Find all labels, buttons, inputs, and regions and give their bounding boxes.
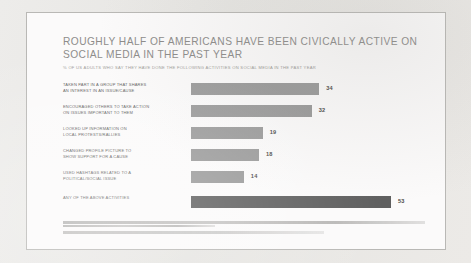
page-background: ROUGHLY HALF OF AMERICANS HAVE BEEN CIVI…	[0, 0, 471, 263]
bar	[191, 105, 312, 117]
bar-category-label: USED HASHTAGS RELATED TO APOLITICAL/SOCI…	[63, 170, 185, 181]
bar-track: 18	[191, 147, 425, 169]
bar-category-label: LOOKED UP INFORMATION ONLOCAL PROTESTS/R…	[63, 126, 185, 137]
bar-category-label: ENCOURAGED OTHERS TO TAKE ACTIONON ISSUE…	[63, 104, 185, 115]
bar-category-line-2: LOCAL PROTESTS/RALLIES	[63, 132, 185, 138]
bar-category-label: CHANGED PROFILE PICTURE TOSHOW SUPPORT F…	[63, 148, 185, 159]
bar-category-line-2: POLITICAL/SOCIAL ISSUE	[63, 176, 185, 182]
bar-value-label: 53	[398, 198, 405, 204]
bar-track: 32	[191, 103, 425, 125]
bar-value-label: 19	[270, 129, 277, 135]
bar-row: CHANGED PROFILE PICTURE TOSHOW SUPPORT F…	[63, 147, 425, 169]
bar-category-line-2: AN INTEREST IN AN ISSUE/CAUSE	[63, 88, 185, 94]
footnote-line	[63, 225, 215, 227]
footnote-line	[63, 221, 425, 223]
bar-track: 34	[191, 81, 425, 103]
bar-track: 14	[191, 169, 425, 191]
bar	[191, 83, 319, 95]
bar-track: 53	[191, 194, 425, 214]
bar-row: TAKEN PART IN A GROUP THAT SHARESAN INTE…	[63, 81, 425, 103]
bar-track: 19	[191, 125, 425, 147]
source-line	[63, 231, 324, 233]
bar	[191, 171, 244, 183]
bar-category-line-2: ON ISSUES IMPORTANT TO THEM	[63, 110, 185, 116]
chart-subtitle: % OF US ADULTS WHO SAY THEY HAVE DONE TH…	[63, 65, 425, 71]
chart-title: ROUGHLY HALF OF AMERICANS HAVE BEEN CIVI…	[63, 35, 425, 61]
bar	[191, 196, 391, 208]
bar-row: USED HASHTAGS RELATED TO APOLITICAL/SOCI…	[63, 169, 425, 191]
chart-footnotes	[63, 221, 425, 233]
bar-category-label: ANY OF THE ABOVE ACTIVITIES	[63, 195, 185, 201]
bar-value-label: 14	[251, 173, 258, 179]
bar-value-label: 18	[266, 151, 273, 157]
bar-chart: TAKEN PART IN A GROUP THAT SHARESAN INTE…	[63, 81, 425, 214]
bar-row: ANY OF THE ABOVE ACTIVITIES53	[63, 194, 425, 214]
chart-title-line-1: ROUGHLY HALF OF AMERICANS HAVE BEEN CIVI…	[63, 35, 425, 48]
bar-value-label: 34	[326, 85, 333, 91]
bar-category-line-2: SHOW SUPPORT FOR A CAUSE	[63, 154, 185, 160]
bar	[191, 149, 259, 161]
bar	[191, 127, 263, 139]
bar-category-label: TAKEN PART IN A GROUP THAT SHARESAN INTE…	[63, 82, 185, 93]
bar-category-line-1: ANY OF THE ABOVE ACTIVITIES	[63, 195, 185, 201]
chart-title-line-2: SOCIAL MEDIA IN THE PAST YEAR	[63, 48, 425, 61]
chart-card: ROUGHLY HALF OF AMERICANS HAVE BEEN CIVI…	[26, 12, 446, 250]
bar-value-label: 32	[319, 107, 326, 113]
chart-content: ROUGHLY HALF OF AMERICANS HAVE BEEN CIVI…	[63, 35, 425, 235]
bar-row: LOOKED UP INFORMATION ONLOCAL PROTESTS/R…	[63, 125, 425, 147]
bar-row: ENCOURAGED OTHERS TO TAKE ACTIONON ISSUE…	[63, 103, 425, 125]
